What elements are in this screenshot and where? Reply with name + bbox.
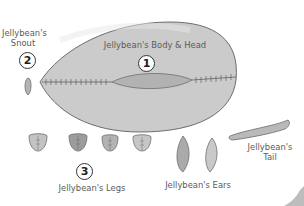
tail-label-line2: Tail	[244, 152, 296, 162]
body-piece	[40, 22, 236, 132]
tail-label-line1: Jellybean's	[244, 142, 296, 152]
legs-label: Jellybean's Legs	[44, 183, 140, 193]
snout-label-line2: Snout	[2, 38, 44, 48]
legs-number-badge: 3	[76, 163, 93, 180]
tail-piece	[229, 120, 289, 140]
snout-label: Jellybean's Snout	[2, 28, 44, 48]
ears-label: Jellybean's Ears	[158, 180, 238, 190]
snout-label-line1: Jellybean's	[2, 28, 44, 38]
tail-label: Jellybean's Tail	[244, 142, 296, 162]
body-number-badge: 1	[138, 55, 155, 72]
page-corner	[284, 186, 304, 206]
snout-number-badge: 2	[19, 52, 36, 69]
snout-piece	[25, 78, 31, 95]
pattern-diagram: Jellybean's Snout 2 Jellybean's Body & H…	[0, 0, 304, 206]
ear-pieces	[177, 136, 217, 172]
body-label: Jellybean's Body & Head	[94, 40, 216, 50]
leg-pieces	[29, 134, 151, 151]
